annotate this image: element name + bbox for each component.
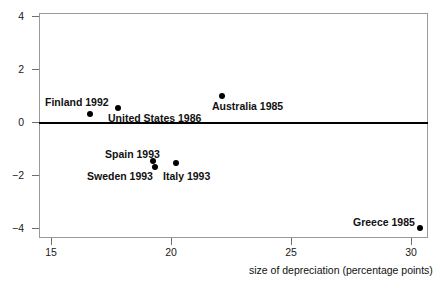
- plot-area: [39, 13, 428, 238]
- scatter-chart: 4 2 0 −2 −4 15 20 25 30 Finland 1992 Uni…: [0, 0, 440, 288]
- x-tick-mark-20: [171, 238, 172, 245]
- x-tick-mark-30: [411, 238, 412, 245]
- point-label-united-states: United States 1986: [108, 112, 201, 124]
- x-tick-mark-15: [51, 238, 52, 245]
- data-point-finland[interactable]: [87, 111, 93, 117]
- point-label-finland: Finland 1992: [45, 96, 109, 108]
- y-tick-mark-4: [32, 16, 39, 17]
- point-label-sweden: Sweden 1993: [87, 170, 153, 182]
- point-label-italy: Italy 1993: [163, 170, 210, 182]
- point-label-australia: Australia 1985: [212, 100, 283, 112]
- x-axis-title: size of depreciation (percentage points): [249, 264, 433, 276]
- y-tick-mark-minus-2: [32, 175, 39, 176]
- x-tick-label-30: 30: [396, 247, 426, 258]
- zero-reference-line: [39, 122, 428, 124]
- y-tick-label-4: 4: [0, 11, 24, 22]
- x-tick-label-25: 25: [276, 247, 306, 258]
- x-tick-label-15: 15: [36, 247, 66, 258]
- data-point-italy[interactable]: [173, 160, 179, 166]
- y-tick-label-minus-2: −2: [0, 170, 24, 181]
- x-tick-mark-25: [291, 238, 292, 245]
- x-tick-label-20: 20: [156, 247, 186, 258]
- data-point-australia[interactable]: [219, 93, 225, 99]
- y-tick-label-2: 2: [0, 64, 24, 75]
- y-tick-mark-minus-4: [32, 228, 39, 229]
- y-tick-mark-0: [32, 122, 39, 123]
- point-label-greece: Greece 1985: [353, 216, 415, 228]
- data-point-greece[interactable]: [417, 225, 423, 231]
- data-point-united-states[interactable]: [115, 105, 121, 111]
- y-tick-label-minus-4: −4: [0, 223, 24, 234]
- y-tick-label-0: 0: [0, 117, 24, 128]
- y-tick-mark-2: [32, 69, 39, 70]
- point-label-spain: Spain 1993: [105, 148, 160, 160]
